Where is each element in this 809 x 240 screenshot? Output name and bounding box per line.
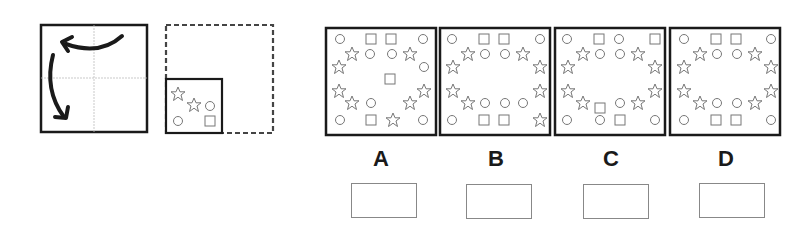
- curved-arrow-left-icon: [50, 55, 68, 118]
- option-c-figure: [555, 28, 665, 135]
- answer-box-b[interactable]: [466, 184, 532, 219]
- answer-box-d[interactable]: [699, 183, 765, 218]
- option-a-figure: [326, 28, 436, 135]
- folded-result-square: [166, 25, 273, 133]
- fold-instruction-square: [41, 25, 147, 132]
- option-d-label: D: [706, 146, 746, 172]
- option-a-label: A: [361, 146, 401, 172]
- option-c-label: C: [591, 146, 631, 172]
- curved-arrow-top-icon: [62, 36, 122, 51]
- option-b-figure: [440, 28, 550, 135]
- option-b-label: B: [476, 146, 516, 172]
- answer-box-c[interactable]: [583, 184, 649, 219]
- option-d-figure: [670, 28, 780, 135]
- answer-box-a[interactable]: [351, 183, 417, 218]
